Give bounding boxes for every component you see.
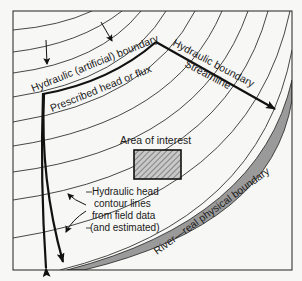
area-of-interest-label: Area of interest — [120, 134, 191, 146]
contour-note-line-3: from field data — [92, 210, 156, 221]
flow-direction-arrow-icon — [101, 22, 112, 41]
contour-note-line-1: Hydraulic head — [92, 186, 159, 197]
contour-note-line-2: contour lines — [94, 198, 151, 209]
callout-arrow-icon — [66, 211, 86, 232]
groundwater-model-boundary-diagram: Hydraulic (artificial) boundary Prescrib… — [0, 0, 302, 281]
callout-arrow-icon — [68, 194, 86, 205]
flow-direction-arrow-icon — [46, 40, 47, 64]
area-of-interest-box — [134, 150, 181, 179]
contour-note-line-4: (and estimated) — [90, 222, 159, 233]
